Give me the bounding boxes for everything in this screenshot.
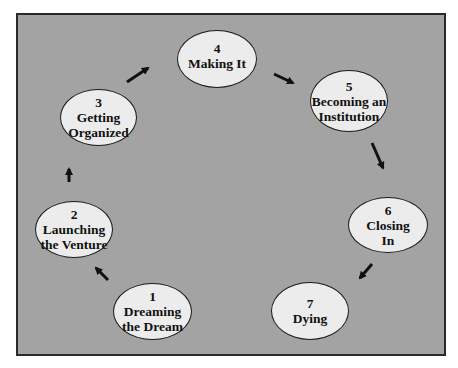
stage-number: 3 — [95, 95, 102, 110]
stage-label-line2: Institution — [319, 109, 380, 124]
stage-number: 5 — [346, 79, 353, 94]
stage-label-line2: Organized — [68, 125, 129, 140]
stage-label-line1: Becoming an — [312, 94, 387, 109]
stage-3-getting-organized: 3 Getting Organized — [60, 89, 137, 146]
stage-number: 7 — [307, 296, 314, 311]
stage-label-line1: Making It — [188, 56, 246, 71]
stage-label-line1: Dying — [293, 311, 328, 326]
stage-label-line1: Dreaming — [124, 304, 182, 319]
stage-4-making-it: 4 Making It — [177, 30, 257, 88]
stage-7-dying: 7 Dying — [271, 282, 349, 340]
stage-number: 1 — [149, 289, 156, 304]
stage-number: 2 — [71, 207, 78, 222]
stage-label-line1: Launching — [43, 222, 105, 237]
stage-number: 6 — [385, 203, 392, 218]
stage-number: 4 — [214, 41, 221, 56]
stage-label-line2: In — [382, 233, 395, 248]
stage-5-becoming-an-institution: 5 Becoming an Institution — [310, 70, 388, 132]
stage-2-launching-the-venture: 2 Launching the Venture — [35, 201, 113, 258]
stage-label-line2: the Dream — [122, 319, 183, 334]
stage-6-closing-in: 6 Closing In — [348, 197, 428, 253]
stage-label-line2: the Venture — [41, 237, 108, 252]
stage-label-line1: Getting — [77, 110, 121, 125]
stage-label-line1: Closing — [366, 218, 410, 233]
stage-1-dreaming-the-dream: 1 Dreaming the Dream — [113, 283, 192, 340]
